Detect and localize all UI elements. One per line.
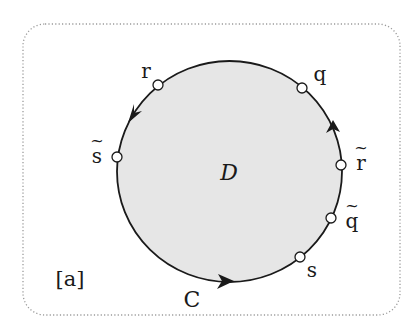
point-r <box>153 80 163 90</box>
region-label: D <box>219 160 238 185</box>
point-s-tilde <box>112 152 122 162</box>
point-r-tilde <box>336 160 346 170</box>
diagram-canvas: r q s ~ r ~ q ~ s D [a] C <box>0 0 417 336</box>
tilde-q-icon: ~ <box>345 196 358 215</box>
panel-label: [a] <box>56 267 85 291</box>
label-q: q <box>314 62 327 86</box>
point-q <box>297 83 307 93</box>
label-s: s <box>307 258 317 282</box>
point-q-tilde <box>326 213 336 223</box>
tilde-s-icon: ~ <box>90 131 103 150</box>
curve-label: C <box>184 287 201 312</box>
label-r: r <box>141 59 151 83</box>
tilde-r-icon: ~ <box>354 138 367 157</box>
point-s <box>295 252 305 262</box>
